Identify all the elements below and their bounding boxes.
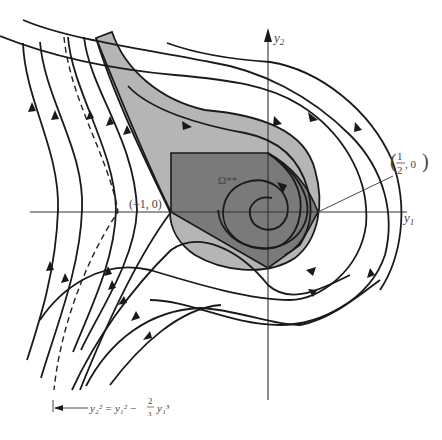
saddle-point-label: (−1, 0): [129, 197, 162, 211]
trajectory-left-3: [68, 37, 116, 352]
svg-text:2: 2: [148, 396, 153, 406]
svg-text:2: 2: [397, 164, 403, 176]
svg-text:3: 3: [148, 410, 152, 418]
pointer-line: [318, 176, 393, 212]
trajectory-lower-1: [72, 242, 350, 390]
y2-axis-arrow-icon: [264, 28, 272, 42]
arrow-icon: [61, 273, 69, 283]
svg-text:): ): [422, 150, 429, 173]
trajectory-left-1: [23, 43, 58, 360]
trajectory-left-2: [40, 42, 82, 378]
arrow-icon: [354, 122, 362, 132]
arrow-icon: [131, 311, 140, 321]
trajectory-lower-3: [110, 305, 221, 385]
svg-text:y₂² = y₁² −: y₂² = y₁² −: [89, 402, 137, 414]
separatrix-equation: y₂² = y₁² − 2 3 y₁³: [89, 396, 170, 418]
arrow-icon: [143, 331, 152, 340]
arrow-icon: [273, 116, 282, 126]
y2-axis-label: y2: [272, 30, 285, 47]
y1-axis-label: y1: [402, 210, 414, 227]
dashed-separatrix-curve: [54, 37, 118, 390]
equation-arrow-icon: [54, 405, 63, 411]
arrow-icon: [51, 110, 59, 120]
svg-text:1: 1: [397, 150, 403, 162]
svg-text:y₁³: y₁³: [156, 402, 170, 414]
arrow-icon: [306, 267, 316, 276]
omega-label: Ω**: [218, 174, 237, 186]
phase-portrait-figure: y2 y1 Ω** (−1, 0) ( 1 2 , 0 ) y₂² = y₁² …: [0, 0, 442, 440]
svg-text:, 0: , 0: [405, 158, 417, 170]
svg-text:(: (: [390, 150, 397, 173]
